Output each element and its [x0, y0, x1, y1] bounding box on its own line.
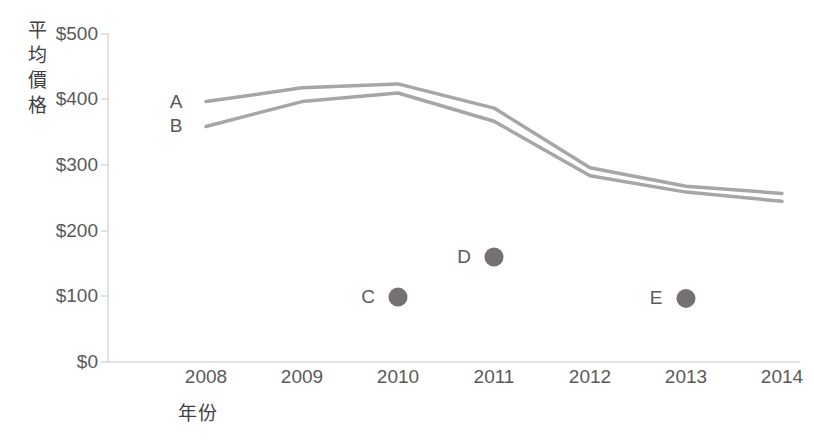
x-axis-tick-label: 2008 [185, 366, 227, 388]
scatter-point-c [389, 288, 408, 307]
x-axis-tick-label: 2011 [474, 366, 515, 388]
point-label-c: C [361, 286, 375, 308]
x-axis-tick-label: 2012 [569, 366, 611, 388]
series-label-b: B [170, 115, 183, 137]
x-axis-tick-label: 2010 [377, 366, 419, 388]
chart-container: 平 均 價 格 $0 $100 $200 $300 $400 $500 [0, 0, 814, 444]
scatter-point-d [485, 248, 504, 267]
x-axis-tick-label: 2014 [761, 366, 803, 388]
point-label-d: D [457, 246, 471, 268]
point-label-e: E [650, 287, 663, 309]
series-line-a [206, 84, 782, 193]
series-label-a: A [170, 91, 183, 113]
y-axis-ticks [101, 34, 108, 362]
x-axis-tick-label: 2009 [281, 366, 323, 388]
scatter-point-e [677, 289, 696, 308]
x-axis-tick-label: 2013 [665, 366, 707, 388]
x-axis-title: 年份 [178, 398, 218, 425]
